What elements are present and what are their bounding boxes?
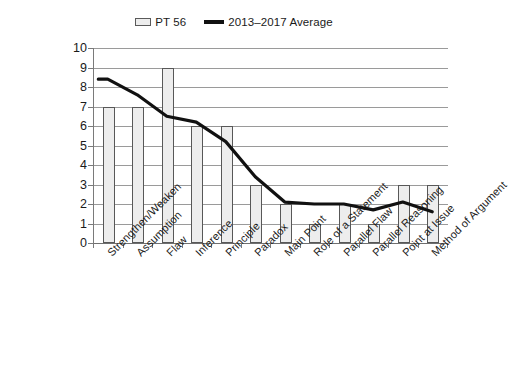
x-axis-label: Flaw — [164, 233, 189, 258]
